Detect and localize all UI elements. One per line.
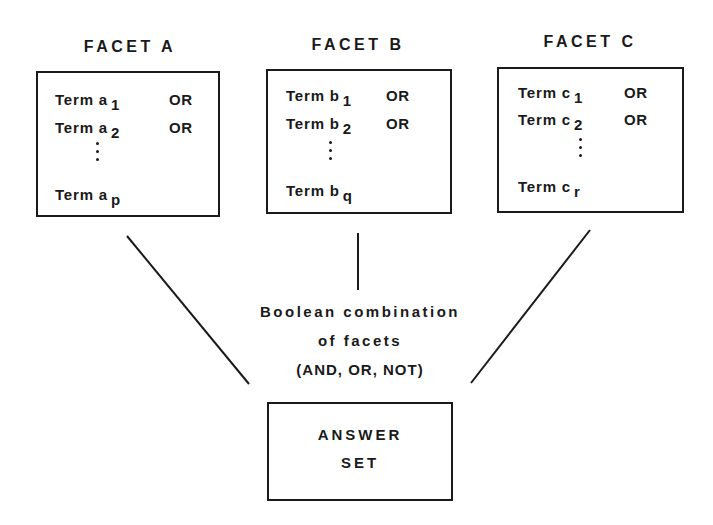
facet-a-title: FACET A: [60, 38, 200, 56]
facet-b-term-2: Term b2: [286, 115, 352, 132]
facet-b-box: Term b1 OR Term b2 OR Term bq: [266, 69, 452, 214]
facet-b-or-2: OR: [386, 115, 410, 132]
facet-b-term-q: Term bq: [286, 182, 353, 199]
facet-c-term-r: Term cr: [518, 178, 581, 195]
facet-c-or-2: OR: [624, 111, 648, 128]
facet-a-term-1: Term a1: [55, 91, 120, 108]
facet-c-or-1: OR: [624, 84, 648, 101]
facet-b-term-1: Term b1: [286, 87, 352, 104]
facet-c-title: FACET C: [520, 33, 660, 51]
answer-set-box: ANSWER SET: [267, 402, 453, 501]
combination-line-1: Boolean combination: [200, 297, 520, 326]
facet-b-or-1: OR: [386, 87, 410, 104]
facet-a-term-p: Term ap: [55, 186, 121, 203]
facet-c-box: Term c1 OR Term c2 OR Term cr: [497, 67, 684, 213]
facet-a-or-2: OR: [169, 119, 193, 136]
facet-a-box: Term a1 OR Term a2 OR Term ap: [36, 71, 220, 217]
facet-a-or-1: OR: [169, 91, 193, 108]
facet-c-term-2: Term c2: [518, 111, 583, 128]
answer-line-2: SET: [269, 454, 451, 471]
facet-a-term-2: Term a2: [55, 119, 120, 136]
ellipsis-icon: [96, 142, 100, 166]
ellipsis-icon: [579, 138, 583, 162]
ellipsis-icon: [329, 141, 333, 165]
combination-line-3: (AND, OR, NOT): [200, 355, 520, 384]
facet-b-title: FACET B: [288, 36, 428, 54]
combination-line-2: of facets: [200, 326, 520, 355]
facet-c-term-1: Term c1: [518, 84, 583, 101]
boolean-combination-label: Boolean combination of facets (AND, OR, …: [200, 297, 520, 384]
answer-line-1: ANSWER: [269, 426, 451, 443]
